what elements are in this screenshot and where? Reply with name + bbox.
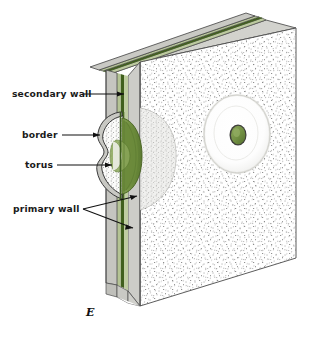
bordered-pit-figure: secondary wall border torus primary wall… bbox=[0, 0, 315, 340]
label-secondary-wall: secondary wall bbox=[12, 88, 92, 99]
figure-illustration: secondary wall border torus primary wall… bbox=[0, 0, 315, 340]
figure-letter: E bbox=[85, 306, 95, 319]
label-primary-wall: primary wall bbox=[13, 203, 80, 214]
face-pit-aperture bbox=[204, 95, 270, 173]
label-group: secondary wall border torus primary wall… bbox=[12, 88, 95, 319]
label-border: border bbox=[22, 129, 58, 140]
label-torus: torus bbox=[25, 159, 53, 170]
